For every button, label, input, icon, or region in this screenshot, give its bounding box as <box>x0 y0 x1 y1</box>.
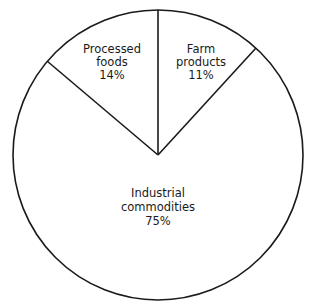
slice-label-line: commodities <box>121 200 195 214</box>
slice-label-line: Processed <box>83 42 141 56</box>
slice-value: 11% <box>188 68 214 82</box>
slice-label-line: Industrial <box>131 186 185 200</box>
slice-label-line: foods <box>96 55 127 69</box>
slice-label-line: products <box>176 55 226 69</box>
slice-value: 14% <box>99 68 125 82</box>
pie-chart: Processed foods 14% Farm products 11% In… <box>0 0 309 305</box>
slice-value: 75% <box>145 214 171 228</box>
slice-label-line: Farm <box>187 42 215 56</box>
